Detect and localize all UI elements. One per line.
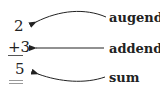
sum-label: sum [109,71,140,84]
augend-label: augend [109,11,160,24]
augend-arrow [36,11,106,22]
sum-arrow [38,74,105,81]
addend-label: addend [109,42,160,55]
